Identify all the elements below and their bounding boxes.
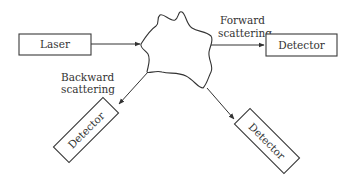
detector-forward-node: Detector: [266, 34, 337, 56]
scattering-diagram: Laser Forward scattering Detector Backwa…: [0, 0, 353, 183]
laser-label: Laser: [40, 38, 71, 50]
forward-scattering-label-line2: scattering: [218, 27, 272, 39]
detector-forward-label: Detector: [278, 39, 325, 51]
sample-blob: [141, 12, 212, 88]
backward-scattering-arrow: [119, 72, 148, 104]
forward-scattering-label-line1: Forward: [220, 14, 265, 26]
backward-scattering-label-line2: scattering: [61, 83, 115, 95]
laser-node: Laser: [19, 34, 91, 55]
backward-scattering-label-line1: Backward: [61, 71, 114, 83]
side-scattering-arrow: [207, 88, 234, 119]
detector-side-node: Detector: [234, 108, 299, 173]
detector-backward-node: Detector: [53, 97, 118, 162]
